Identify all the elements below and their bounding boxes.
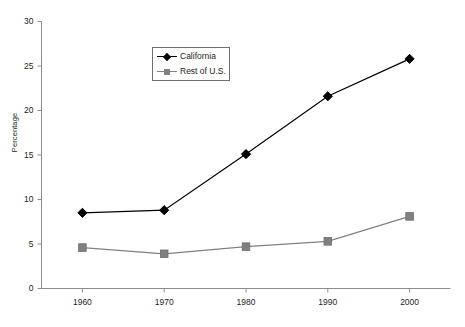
- y-tick-label: 0: [8, 284, 34, 293]
- y-tick-label: 15: [8, 151, 34, 160]
- data-point: [323, 92, 332, 101]
- data-point: [241, 150, 250, 159]
- legend-item-california: California: [157, 49, 216, 64]
- data-point: [242, 243, 250, 251]
- x-tick-label: 2000: [388, 298, 432, 307]
- x-tick-label: 1980: [224, 298, 268, 307]
- data-point: [160, 206, 169, 215]
- data-point: [79, 244, 87, 252]
- line-chart: Percentage 051015202530 1960197019801990…: [0, 0, 465, 327]
- data-point: [405, 54, 414, 63]
- legend-swatch-diamond-icon: [157, 51, 177, 62]
- y-axis-ticks: [38, 22, 42, 289]
- data-point: [406, 213, 414, 221]
- plot-area: [0, 0, 465, 327]
- x-axis-ticks: [82, 289, 409, 293]
- chart-legend: California Rest of U.S.: [152, 47, 230, 81]
- legend-swatch-square-icon: [157, 66, 177, 77]
- y-tick-label: 5: [8, 240, 34, 249]
- data-point: [78, 208, 87, 217]
- legend-item-rest-of-us: Rest of U.S.: [157, 64, 226, 79]
- x-tick-label: 1990: [306, 298, 350, 307]
- data-point: [324, 238, 332, 246]
- series-california: [78, 54, 414, 217]
- y-tick-label: 10: [8, 195, 34, 204]
- legend-label-rest-of-us: Rest of U.S.: [180, 67, 226, 76]
- x-tick-label: 1960: [60, 298, 104, 307]
- data-point: [160, 250, 168, 258]
- series-rest-of-us: [79, 213, 414, 258]
- y-tick-label: 25: [8, 62, 34, 71]
- x-tick-label: 1970: [142, 298, 186, 307]
- y-tick-label: 20: [8, 106, 34, 115]
- legend-label-california: California: [180, 52, 216, 61]
- y-tick-label: 30: [8, 17, 34, 26]
